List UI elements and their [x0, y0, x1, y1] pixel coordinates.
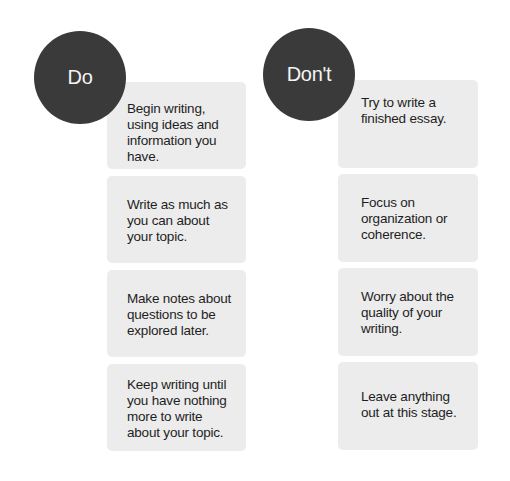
- do-item-text: Begin writing, using ideas and informati…: [127, 101, 219, 165]
- do-heading-circle: Do: [34, 31, 126, 124]
- dont-item-4: Leave anything out at this stage.: [338, 362, 478, 450]
- dont-item-text: Leave anything out at this stage.: [361, 389, 456, 421]
- do-item-text: Write as much as you can about your topi…: [127, 197, 228, 245]
- dont-item-2: Focus on organization or coherence.: [338, 174, 478, 262]
- do-item-1: Begin writing, using ideas and informati…: [107, 82, 246, 169]
- do-item-4: Keep writing until you have nothing more…: [107, 364, 246, 451]
- do-item-2: Write as much as you can about your topi…: [107, 176, 246, 263]
- dont-item-text: Worry about the quality of your writing.: [361, 289, 454, 337]
- do-item-text: Make notes about questions to be explore…: [127, 291, 231, 339]
- dont-heading: Don't: [287, 63, 332, 86]
- dont-item-1: Try to write a finished essay.: [338, 80, 478, 168]
- do-item-3: Make notes about questions to be explore…: [107, 270, 246, 357]
- dont-item-3: Worry about the quality of your writing.: [338, 268, 478, 356]
- do-item-text: Keep writing until you have nothing more…: [127, 377, 227, 441]
- dont-item-text: Focus on organization or coherence.: [361, 195, 447, 243]
- do-heading: Do: [68, 66, 93, 89]
- dont-item-text: Try to write a finished essay.: [361, 95, 446, 127]
- dont-heading-circle: Don't: [263, 28, 355, 121]
